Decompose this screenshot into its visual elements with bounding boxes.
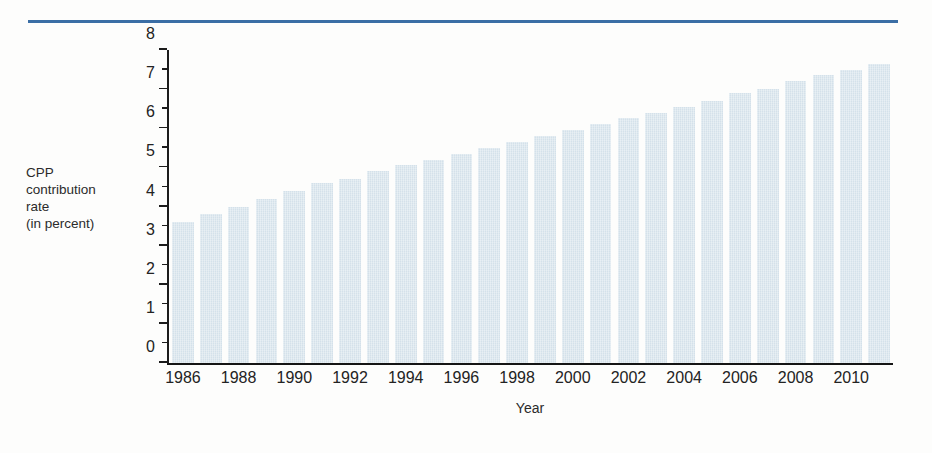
bar — [451, 154, 473, 363]
bar — [645, 113, 667, 363]
y-tick-major — [159, 361, 167, 363]
plot-area: 012345678 — [167, 50, 893, 363]
y-tick-label: 0 — [146, 339, 155, 355]
bar — [562, 130, 584, 363]
y-tick-label: 7 — [146, 65, 155, 81]
bar — [228, 207, 250, 364]
bar — [367, 171, 389, 363]
bar — [200, 214, 222, 363]
y-tick-label: 8 — [146, 26, 155, 42]
y-tick-minor — [162, 342, 167, 343]
bar — [729, 93, 751, 363]
bar — [701, 101, 723, 363]
bar — [813, 75, 835, 363]
y-tick-minor — [162, 264, 167, 265]
y-tick-label: 3 — [146, 222, 155, 238]
bar-series — [169, 50, 893, 363]
x-axis-caption: Year — [167, 400, 893, 416]
bar — [339, 179, 361, 363]
x-tick-label: 1996 — [444, 368, 480, 388]
x-tick-label: 1994 — [388, 368, 424, 388]
bar — [590, 124, 612, 363]
bar — [172, 222, 194, 363]
y-tick-label: 2 — [146, 261, 155, 277]
x-tick-label: 1998 — [499, 368, 535, 388]
y-tick-label: 6 — [146, 104, 155, 120]
x-tick-label: 2004 — [666, 368, 702, 388]
y-tick-label: 4 — [146, 183, 155, 199]
y-tick-minor — [162, 68, 167, 69]
bar — [395, 165, 417, 363]
bar — [256, 199, 278, 363]
bar — [283, 191, 305, 363]
x-tick-label: 1990 — [277, 368, 313, 388]
bar — [618, 118, 640, 363]
y-tick-minor — [162, 225, 167, 226]
y-tick-minor — [162, 186, 167, 187]
x-tick-label: 2002 — [611, 368, 647, 388]
x-axis-tick-labels: 1986198819901992199419961998200020022004… — [167, 368, 893, 394]
y-axis-caption: CPP contribution rate (in percent) — [26, 164, 146, 232]
bar — [506, 142, 528, 363]
x-tick-label: 2000 — [555, 368, 591, 388]
bar — [534, 136, 556, 363]
y-tick-major — [159, 88, 167, 90]
x-tick-label: 2008 — [778, 368, 814, 388]
top-divider-rule — [28, 20, 898, 23]
x-tick-label: 2010 — [833, 368, 869, 388]
y-tick-major — [159, 244, 167, 246]
x-tick-label: 2006 — [722, 368, 758, 388]
x-tick-label: 1986 — [165, 368, 201, 388]
x-tick-label: 1992 — [332, 368, 368, 388]
x-tick-label: 1988 — [221, 368, 257, 388]
bar — [478, 148, 500, 363]
y-tick-minor — [162, 303, 167, 304]
bar — [311, 183, 333, 363]
y-tick-minor — [162, 107, 167, 108]
bar — [423, 160, 445, 363]
bar — [673, 107, 695, 363]
y-tick-label: 5 — [146, 143, 155, 159]
y-tick-major — [159, 127, 167, 129]
bar — [785, 81, 807, 363]
bar — [757, 89, 779, 363]
bar — [868, 64, 890, 363]
bar — [840, 70, 862, 363]
y-tick-major — [159, 166, 167, 168]
y-tick-major — [159, 322, 167, 324]
y-tick-major — [159, 205, 167, 207]
cpp-contribution-rate-figure: CPP contribution rate (in percent) 01234… — [0, 0, 932, 453]
y-tick-label: 1 — [146, 300, 155, 316]
y-tick-major — [159, 48, 167, 50]
y-tick-major — [159, 283, 167, 285]
y-tick-minor — [162, 146, 167, 147]
